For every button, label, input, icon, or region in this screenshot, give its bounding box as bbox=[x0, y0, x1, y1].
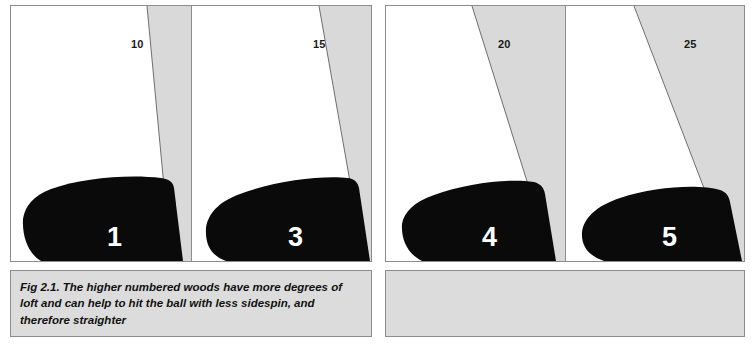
club-number-label-5: 5 bbox=[662, 224, 678, 251]
club-panel-5: 25 5 bbox=[565, 6, 745, 261]
club-panel-4-graphic bbox=[386, 6, 565, 261]
loft-degrees-label-4: 20 bbox=[498, 39, 511, 50]
panel-group-right: 20 4 25 5 bbox=[385, 5, 745, 262]
club-panel-1: 10 1 bbox=[11, 6, 191, 261]
club-panel-3-graphic bbox=[192, 6, 372, 261]
club-number-label-3: 3 bbox=[288, 224, 304, 251]
figure-caption-box: Fig 2.1. The higher numbered woods have … bbox=[10, 270, 372, 337]
loft-degrees-label-5: 25 bbox=[684, 39, 697, 50]
club-panel-4: 20 4 bbox=[386, 6, 565, 261]
club-panel-5-graphic bbox=[566, 6, 745, 261]
figure-caption-box-empty bbox=[385, 270, 745, 337]
figure-caption-text: Fig 2.1. The higher numbered woods have … bbox=[20, 279, 350, 328]
panel-group-left: 10 1 15 3 bbox=[10, 5, 372, 262]
club-panel-1-graphic bbox=[11, 6, 191, 261]
club-panel-3: 15 3 bbox=[191, 6, 372, 261]
loft-degrees-label-3: 15 bbox=[313, 39, 326, 50]
club-number-label-1: 1 bbox=[107, 224, 123, 251]
loft-degrees-label-1: 10 bbox=[131, 39, 144, 50]
club-number-label-4: 4 bbox=[482, 224, 498, 251]
figure-root: 10 1 15 3 20 4 bbox=[0, 0, 754, 346]
